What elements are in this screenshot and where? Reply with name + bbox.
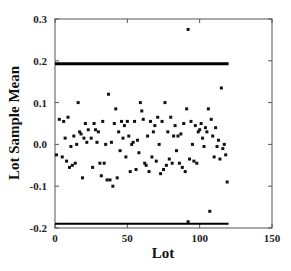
data-point	[69, 145, 72, 148]
data-point	[216, 145, 219, 148]
data-point	[213, 155, 216, 158]
data-point	[116, 176, 119, 179]
data-point	[161, 120, 164, 123]
data-point	[140, 109, 143, 112]
data-point	[191, 143, 194, 146]
plot-border	[55, 19, 272, 228]
y-tick-label: 0.2	[33, 55, 47, 67]
data-point	[71, 164, 74, 167]
data-point	[217, 139, 220, 142]
y-tick-label: 0.3	[33, 13, 47, 25]
scatter-chart: -0.2-0.10.00.10.20.3 050100150 Lot Lot S…	[0, 0, 291, 271]
data-point	[150, 155, 153, 158]
data-point	[101, 120, 104, 123]
data-point	[205, 130, 208, 133]
data-point	[74, 162, 77, 165]
data-point	[184, 170, 187, 173]
data-point	[223, 143, 226, 146]
data-point	[107, 93, 110, 96]
data-point	[123, 124, 126, 127]
data-point	[133, 120, 136, 123]
control-limit-lines	[55, 64, 229, 224]
data-point	[226, 181, 229, 184]
data-point	[68, 166, 71, 169]
data-point	[100, 174, 103, 177]
x-axis-label: Lot	[152, 245, 175, 261]
data-point	[58, 118, 61, 121]
data-point	[188, 158, 191, 161]
data-point	[203, 145, 206, 148]
data-point	[65, 160, 68, 163]
data-point	[178, 162, 181, 165]
data-point	[163, 101, 166, 104]
x-tick-label: 50	[122, 232, 134, 244]
data-point	[75, 143, 78, 146]
x-tick-label: 0	[52, 232, 58, 244]
data-point	[72, 135, 75, 138]
data-point	[80, 132, 83, 135]
data-point	[171, 162, 174, 165]
data-point	[201, 137, 204, 140]
data-point	[98, 162, 101, 165]
y-tick-label: -0.2	[30, 222, 48, 234]
data-point	[106, 178, 109, 181]
y-tick-label: 0.0	[33, 138, 47, 150]
data-point	[142, 118, 145, 121]
data-point	[172, 135, 175, 138]
data-point	[162, 168, 165, 171]
data-point	[85, 141, 88, 144]
data-point	[67, 116, 70, 119]
data-point	[179, 132, 182, 135]
data-point	[187, 28, 190, 31]
data-point	[159, 172, 162, 175]
data-point	[174, 124, 177, 127]
data-point	[121, 137, 124, 140]
data-point	[181, 166, 184, 169]
data-point	[200, 122, 203, 125]
data-point	[153, 124, 156, 127]
data-point	[166, 130, 169, 133]
data-point	[108, 178, 111, 181]
data-point	[93, 122, 96, 125]
data-point	[103, 162, 106, 165]
data-point	[158, 143, 161, 146]
data-point	[207, 107, 210, 110]
data-point	[211, 135, 214, 138]
data-point	[149, 120, 152, 123]
data-point	[126, 120, 129, 123]
data-point	[61, 155, 64, 158]
data-point	[114, 107, 117, 110]
data-point	[218, 158, 221, 161]
data-point	[185, 107, 188, 110]
data-point	[204, 126, 207, 129]
data-point	[220, 86, 223, 89]
data-point	[77, 101, 80, 104]
y-axis-label: Lot Sample Mean	[6, 65, 22, 180]
data-point	[148, 170, 151, 173]
data-point	[104, 143, 107, 146]
data-point	[84, 122, 87, 125]
data-point	[210, 118, 213, 121]
data-point	[208, 210, 211, 213]
data-point	[127, 135, 130, 138]
data-point	[156, 116, 159, 119]
data-point	[165, 164, 168, 167]
data-points	[55, 28, 229, 223]
y-tick-label: 0.1	[33, 97, 47, 109]
data-point	[117, 130, 120, 133]
data-point	[195, 162, 198, 165]
data-point	[176, 135, 179, 138]
data-point	[91, 166, 94, 169]
data-point	[169, 116, 172, 119]
data-point	[168, 158, 171, 161]
data-point	[90, 137, 93, 140]
data-point	[135, 168, 138, 171]
data-point	[137, 151, 140, 154]
data-point	[87, 128, 90, 131]
data-point	[132, 141, 135, 144]
data-point	[94, 128, 97, 131]
data-point	[224, 153, 227, 156]
data-point	[110, 141, 113, 144]
data-point	[62, 120, 65, 123]
data-point	[97, 130, 100, 133]
